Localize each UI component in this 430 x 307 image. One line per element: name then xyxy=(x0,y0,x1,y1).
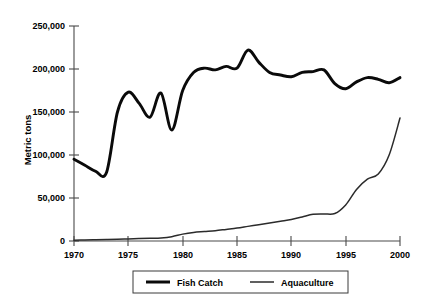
chart-legend: Fish Catch Aquaculture xyxy=(133,271,348,293)
y-tick-label-150000: 150,000 xyxy=(32,107,65,117)
x-tick-label-1995: 1995 xyxy=(336,250,356,260)
y-tick-labels: 250,000 200,000 150,000 100,000 50,000 0 xyxy=(32,21,65,246)
y-tick-label-0: 0 xyxy=(60,236,65,246)
x-tick-label-1975: 1975 xyxy=(118,250,138,260)
y-tick-label-50000: 50,000 xyxy=(37,193,65,203)
x-tick-labels: 1970 1975 1980 1985 1990 1995 2000 xyxy=(64,250,410,260)
line-chart: Metric tons 250,000 200,000 150,000 100,… xyxy=(0,0,430,307)
series-line-fish-catch xyxy=(74,50,400,177)
y-tick-label-250000: 250,000 xyxy=(32,21,65,31)
x-tick-label-1985: 1985 xyxy=(227,250,247,260)
x-tick-label-1980: 1980 xyxy=(173,250,193,260)
y-axis-title: Metric tons xyxy=(22,115,33,166)
x-tick-label-1970: 1970 xyxy=(64,250,84,260)
legend-label-fish-catch: Fish Catch xyxy=(177,278,223,288)
y-tick-label-100000: 100,000 xyxy=(32,150,65,160)
y-axis-title-text: Metric tons xyxy=(22,115,33,166)
y-axis: 250,000 200,000 150,000 100,000 50,000 0 xyxy=(32,21,79,246)
y-tick-label-200000: 200,000 xyxy=(32,64,65,74)
x-tick-label-1990: 1990 xyxy=(281,250,301,260)
legend-label-aquaculture: Aquaculture xyxy=(281,278,334,288)
chart-container: Metric tons 250,000 200,000 150,000 100,… xyxy=(0,0,430,307)
series-line-aquaculture xyxy=(74,118,400,240)
x-tick-label-2000: 2000 xyxy=(390,250,410,260)
